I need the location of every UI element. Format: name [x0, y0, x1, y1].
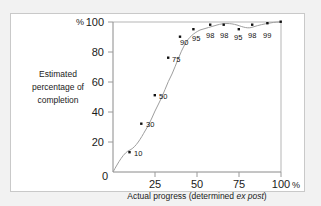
x-axis-title-plain: Actual progress (determined — [127, 191, 236, 201]
data-point-label-5: 90 — [180, 38, 188, 47]
data-point-label-11: 99 — [263, 31, 271, 40]
y-axis-unit-percent: % — [76, 17, 84, 27]
y-tick-label-20: 20 — [92, 136, 104, 148]
data-point-label-9: 95 — [234, 33, 242, 42]
data-point-12 — [280, 21, 282, 23]
data-point-7 — [209, 24, 211, 26]
y-axis-tick-labels: 100 80 60 40 20 0 — [86, 16, 108, 182]
y-axis-title-line-1: Estimated — [39, 69, 77, 79]
data-point-label-6: 95 — [192, 34, 200, 43]
x-axis-title-tail: ) — [264, 191, 267, 201]
x-axis-title-italic: ex post — [236, 191, 264, 201]
data-markers — [128, 21, 282, 154]
x-tick-label-25: 25 — [149, 178, 161, 190]
y-tick-label-60: 60 — [92, 76, 104, 88]
x-axis-tick-labels: 25 50 75 100 — [149, 178, 290, 190]
y-axis-title: Estimated percentage of completion — [32, 69, 85, 105]
data-point-1 — [128, 151, 130, 153]
y-tick-label-40: 40 — [92, 106, 104, 118]
x-axis-title: Actual progress (determined ex post) — [127, 191, 267, 201]
data-point-11 — [266, 22, 268, 24]
x-axis-ticks — [155, 172, 281, 177]
data-point-2 — [140, 123, 142, 125]
data-point-label-1: 10 — [134, 149, 142, 158]
data-point-10 — [251, 24, 253, 26]
x-tick-label-100: 100 — [272, 178, 290, 190]
x-axis-unit-percent: % — [292, 180, 300, 190]
data-point-9 — [238, 28, 240, 30]
progress-estimation-chart: 100 80 60 40 20 0 % 25 50 75 100 % — [0, 0, 321, 206]
y-axis-ticks — [108, 22, 113, 142]
y-tick-label-100: 100 — [86, 16, 104, 28]
data-point-3 — [154, 94, 156, 96]
y-axis-title-line-3: completion — [37, 95, 78, 105]
y-tick-label-80: 80 — [92, 46, 104, 58]
data-point-6 — [192, 28, 194, 30]
data-point-4 — [167, 57, 169, 59]
data-point-label-8: 98 — [220, 31, 228, 40]
data-point-label-10: 98 — [248, 31, 256, 40]
data-point-label-7: 98 — [206, 31, 214, 40]
y-tick-label-0: 0 — [102, 170, 108, 182]
x-tick-label-50: 50 — [191, 178, 203, 190]
y-axis-title-line-2: percentage of — [32, 82, 85, 92]
data-point-label-3: 50 — [159, 92, 167, 101]
data-point-8 — [223, 24, 225, 26]
data-point-label-2: 30 — [146, 120, 154, 129]
x-tick-label-75: 75 — [233, 178, 245, 190]
data-point-label-4: 75 — [172, 55, 180, 64]
